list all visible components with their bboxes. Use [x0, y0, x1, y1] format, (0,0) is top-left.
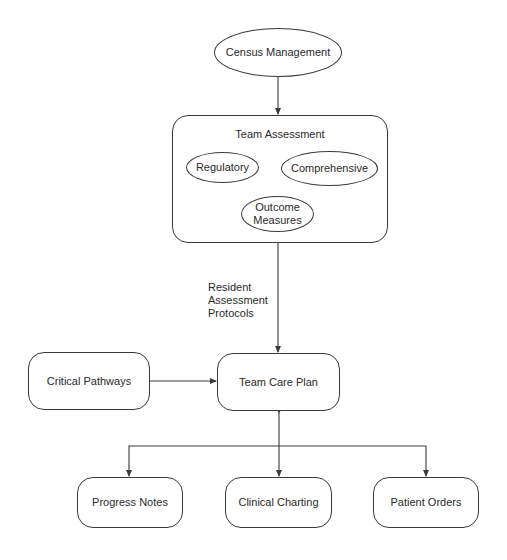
node-label: Critical Pathways: [47, 375, 131, 388]
connector-layer: [0, 0, 507, 560]
node-clinical-charting: Clinical Charting: [225, 477, 332, 528]
node-comprehensive: Comprehensive: [281, 151, 378, 186]
node-progress-notes: Progress Notes: [77, 477, 183, 528]
team-assessment-title: Team Assessment: [173, 128, 387, 140]
node-label: Census Management: [226, 46, 331, 59]
node-label: Patient Orders: [391, 496, 462, 509]
node-label-line1: Outcome: [255, 201, 300, 214]
edge-label-line1: Resident: [208, 281, 268, 294]
node-outcome-measures: Outcome Measures: [241, 196, 314, 232]
edge-branch-progress: [129, 446, 279, 476]
edge-label-line3: Protocols: [208, 307, 268, 320]
edge-label-line2: Assessment: [208, 294, 268, 307]
node-patient-orders: Patient Orders: [373, 477, 479, 528]
edge-branch-orders: [279, 446, 426, 476]
node-team-care-plan: Team Care Plan: [217, 353, 340, 411]
node-census-management: Census Management: [214, 28, 342, 77]
node-label: Regulatory: [196, 161, 249, 174]
node-label: Progress Notes: [92, 496, 168, 509]
node-label: Comprehensive: [291, 162, 368, 175]
edge-label-resident-assessment-protocols: Resident Assessment Protocols: [208, 281, 268, 320]
node-regulatory: Regulatory: [186, 152, 259, 183]
node-label-line2: Measures: [253, 214, 301, 227]
node-critical-pathways: Critical Pathways: [28, 352, 150, 410]
node-label: Team Care Plan: [239, 376, 318, 389]
node-label: Clinical Charting: [238, 496, 318, 509]
